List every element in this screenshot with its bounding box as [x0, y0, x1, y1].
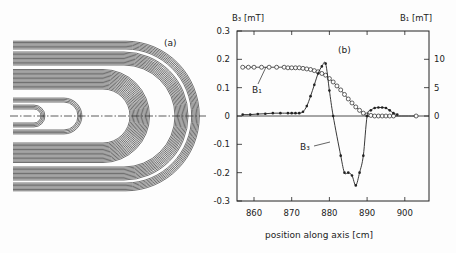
b1-leader-line — [258, 67, 266, 84]
b3-point — [343, 171, 346, 174]
b3-point — [351, 174, 354, 177]
b3-point — [287, 112, 290, 115]
b3-point — [358, 171, 361, 174]
b3-line — [243, 62, 398, 185]
panel-a-label: (a) — [164, 38, 177, 48]
tick-labels: 860870880890900-0.3-0.2-0.100.10.20.3051… — [213, 26, 444, 218]
right-axis-label: B₁ [mT] — [400, 13, 432, 23]
b3-point — [381, 106, 384, 109]
b1-point — [354, 105, 358, 109]
b1-point — [305, 67, 309, 71]
b3-point — [328, 89, 331, 92]
b3-point — [256, 113, 259, 116]
y-left-tick-label: 0 — [225, 111, 230, 121]
b1-point — [414, 114, 418, 118]
b1-point — [252, 65, 256, 69]
b1-point — [282, 65, 286, 69]
b3-curve-label: B₃ — [300, 142, 310, 152]
b1-point — [369, 113, 373, 117]
b1-point — [342, 92, 346, 96]
b1-point — [361, 111, 365, 115]
b1-point — [376, 114, 380, 118]
b1-point — [246, 65, 250, 69]
b3-point — [279, 112, 282, 115]
b1-point — [267, 65, 271, 69]
x-tick-label: 880 — [321, 208, 337, 218]
x-axis-label: position along axis [cm] — [265, 230, 373, 240]
b1-point — [339, 88, 343, 92]
b1-point — [380, 114, 384, 118]
b3-point — [396, 113, 399, 116]
b3-point — [272, 112, 275, 115]
y-left-tick-label: 0.2 — [216, 54, 230, 64]
series-b3 — [241, 62, 398, 187]
b1-point — [335, 84, 339, 88]
b1-point — [346, 97, 350, 101]
b3-point — [354, 184, 357, 187]
figure: (a) 860870880890900-0.3-0.2-0.100.10.20.… — [0, 0, 456, 253]
b1-point — [391, 114, 395, 118]
b3-point — [294, 112, 297, 115]
b3-point — [370, 109, 373, 112]
b3-point — [373, 107, 376, 110]
x-tick-label: 860 — [246, 208, 262, 218]
b3-point — [309, 95, 312, 98]
b3-point — [249, 113, 252, 116]
b3-point — [366, 115, 369, 118]
y-left-tick-label: -0.2 — [213, 168, 230, 178]
y-right-tick-label: 10 — [434, 54, 445, 64]
b3-leader-line — [314, 142, 330, 146]
b3-point — [302, 110, 305, 113]
b3-point — [290, 112, 293, 115]
y-right-tick-label: 5 — [434, 83, 439, 93]
b1-point — [358, 108, 362, 112]
b3-point — [324, 62, 327, 65]
b3-point — [388, 109, 391, 112]
b3-point — [332, 115, 335, 118]
b1-point — [312, 69, 316, 73]
x-tick-label: 900 — [397, 208, 413, 218]
b1-point — [320, 71, 324, 75]
b1-point — [297, 66, 301, 70]
y-left-tick-label: -0.3 — [213, 196, 230, 206]
b3-point — [241, 113, 244, 116]
b1-point — [373, 114, 377, 118]
b1-point — [331, 80, 335, 84]
x-tick-label: 890 — [359, 208, 375, 218]
b3-point — [347, 171, 350, 174]
b3-point — [377, 106, 380, 109]
b3-point — [385, 107, 388, 110]
b3-point — [321, 65, 324, 68]
b1-point — [384, 114, 388, 118]
b3-point — [317, 72, 320, 75]
b1-point — [309, 68, 313, 72]
y-left-tick-label: 0.3 — [216, 26, 230, 36]
b1-point — [301, 66, 305, 70]
b1-point — [388, 114, 392, 118]
b1-point — [260, 65, 264, 69]
y-right-tick-label: 0 — [434, 111, 439, 121]
b3-point — [298, 112, 301, 115]
left-axis-label: B₃ [mT] — [232, 13, 264, 23]
y-left-tick-label: -0.1 — [213, 139, 230, 149]
b1-point — [275, 65, 279, 69]
b3-point — [313, 84, 316, 87]
plot-area: 860870880890900-0.3-0.2-0.100.10.20.3051… — [213, 13, 444, 240]
b1-point — [241, 65, 245, 69]
b3-point — [264, 112, 267, 115]
b3-point — [305, 105, 308, 108]
b1-curve-label: B₁ — [252, 85, 262, 95]
b1-point — [293, 66, 297, 70]
b1-point — [350, 101, 354, 105]
x-tick-label: 870 — [284, 208, 300, 218]
b3-point — [362, 154, 365, 157]
b1-point — [286, 66, 290, 70]
b1-point — [290, 66, 294, 70]
b3-point — [392, 112, 395, 115]
panel-b-label: (b) — [338, 45, 351, 55]
y-left-tick-label: 0.1 — [216, 83, 230, 93]
b3-point — [339, 154, 342, 157]
